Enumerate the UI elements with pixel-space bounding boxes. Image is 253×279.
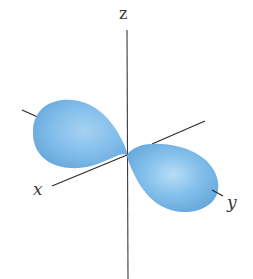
y-axis-label: y — [227, 194, 237, 211]
p-orbital-diagram: z x y — [0, 0, 253, 279]
orbital-lobe-right — [127, 144, 218, 212]
y-axis-back-line — [152, 121, 205, 144]
z-axis-label: z — [119, 6, 127, 22]
orbital-svg — [0, 0, 253, 279]
x-axis-label: x — [33, 181, 43, 198]
orbital-lobe-left — [33, 100, 127, 168]
